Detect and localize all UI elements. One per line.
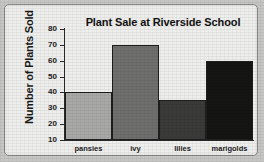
x-label-ivy: ivy [112,144,159,153]
y-tick-mark [60,61,64,62]
y-tick-mark [60,77,64,78]
y-tick-mark [60,45,64,46]
y-axis-title: Number of Plants Sold [23,7,35,127]
x-label-pansies: pansies [65,144,112,153]
y-tick-label: 40 [37,88,57,96]
y-tick-mark [60,29,64,30]
chart-title: Plant Sale at Riverside School [65,16,261,28]
bar-ivy [112,45,159,140]
bar-lilies [159,100,206,140]
y-tick-mark [60,108,64,109]
plot-area [65,29,253,140]
y-tick-label: 20 [37,120,57,128]
chart-canvas: Plant Sale at Riverside School Number of… [7,7,255,153]
y-tick-label: 80 [37,25,57,33]
y-tick-label: 10 [37,136,57,144]
x-label-lilies: lilies [159,144,206,153]
y-tick-label: 30 [37,104,57,112]
y-tick-mark [60,124,64,125]
y-tick-label: 60 [37,57,57,65]
y-tick-mark [60,140,64,141]
bar-marigolds [206,61,253,140]
x-label-marigolds: marigolds [206,144,253,153]
x-axis-line [64,140,254,141]
y-tick-label: 70 [37,41,57,49]
chart-page: Plant Sale at Riverside School Number of… [0,0,264,162]
y-tick-label: 50 [37,73,57,81]
bar-pansies [65,92,112,140]
y-tick-mark [60,92,64,93]
